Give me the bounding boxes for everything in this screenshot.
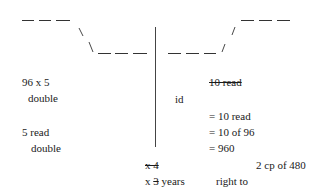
handwritten-note-page: 96 x 5 double 5 read double 10 read id =… (0, 0, 332, 196)
left-line-double: double (28, 92, 58, 105)
note-2cp-of-480: 2 cp of 480 (256, 159, 306, 172)
struck-10-read: 10 read (209, 76, 242, 89)
id-label: id (175, 93, 184, 106)
equation-line-2: = 10 of 96 (209, 126, 255, 139)
left-slashes (79, 28, 93, 52)
multiplier-suffix: years (159, 175, 185, 187)
equation-line-1: = 10 read (209, 110, 251, 123)
right-slashes (222, 27, 235, 52)
equation-line-3: = 960 (209, 142, 234, 155)
right-to-label: right to (216, 175, 248, 188)
left-line-96x5: 96 x 5 (22, 76, 50, 89)
multiplier-years: x 3 years (145, 175, 185, 188)
left-line-double-2: double (31, 142, 61, 155)
struck-x4: x 4 (145, 159, 159, 172)
left-line-5-read: 5 read (22, 126, 49, 139)
multiplier-prefix: x (145, 175, 153, 187)
